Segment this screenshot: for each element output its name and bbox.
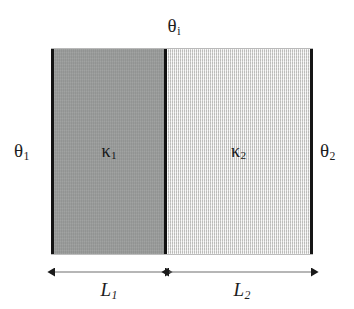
theta-left-symbol: θ xyxy=(14,140,23,161)
kappa-2-subscript: 2 xyxy=(240,149,246,161)
length-l2-symbol: L xyxy=(234,279,245,300)
left-slab-region: κ1 xyxy=(51,49,167,254)
theta-interface-subscript: i xyxy=(177,25,181,38)
theta-right-label: θ2 xyxy=(320,141,336,162)
theta-left-subscript: 1 xyxy=(23,150,29,163)
length-l1-label: L1 xyxy=(57,280,161,301)
slab-block: κ1 κ2 xyxy=(51,48,313,255)
kappa-2-symbol: κ xyxy=(231,141,240,161)
right-slab-region: κ2 xyxy=(167,49,313,254)
theta-interface-symbol: θ xyxy=(168,15,177,36)
length-l2-subscript: 2 xyxy=(244,289,250,302)
length-l1-symbol: L xyxy=(101,279,112,300)
composite-wall-diagram: θi θ1 θ2 κ1 κ2 L1 L2 xyxy=(0,0,354,309)
theta-right-subscript: 2 xyxy=(329,150,335,163)
theta-right-symbol: θ xyxy=(320,140,329,161)
length-l1-subscript: 1 xyxy=(111,289,117,302)
kappa-1-subscript: 1 xyxy=(111,149,117,161)
length-l2-label: L2 xyxy=(176,280,308,301)
theta-left-label: θ1 xyxy=(14,141,30,162)
kappa-1-label: κ1 xyxy=(101,142,116,162)
theta-interface-label: θi xyxy=(0,16,354,37)
kappa-1-symbol: κ xyxy=(101,141,110,161)
kappa-2-label: κ2 xyxy=(231,142,246,162)
